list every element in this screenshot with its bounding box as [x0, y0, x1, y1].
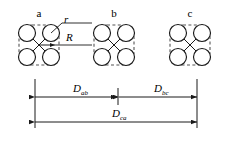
dimension-label-D_ca-subscript: ca: [120, 114, 127, 122]
dimension-label-D_ab-symbol: D: [73, 82, 81, 94]
cluster-label-b: b: [108, 7, 120, 19]
dimension-label-D_ab: Dab: [73, 82, 88, 99]
dimension-label-D_bc-symbol: D: [154, 82, 162, 94]
dimension-label-D_ab-subscript: ab: [81, 89, 88, 97]
cluster-label-a: a: [33, 7, 45, 19]
radius-r-label: r: [64, 13, 68, 25]
sub-conductor-c-0: [170, 25, 187, 42]
cluster-label-c: c: [184, 7, 196, 19]
figure-canvas: abcrRDabDbcDca: [0, 0, 229, 146]
sub-conductor-b-2: [94, 49, 111, 66]
radius-R-label-symbol: R: [66, 31, 73, 43]
sub-conductor-c-3: [194, 49, 211, 66]
sub-conductor-b-0: [94, 25, 111, 42]
radius-R-label: R: [66, 31, 73, 43]
sub-conductor-a-2: [19, 49, 36, 66]
sub-conductor-a-0: [19, 25, 36, 42]
sub-conductor-b-1: [118, 25, 135, 42]
sub-conductor-a-3: [43, 49, 60, 66]
sub-conductor-c-1: [194, 25, 211, 42]
radius-r-label-symbol: r: [64, 13, 68, 25]
dimension-label-D_bc-subscript: bc: [162, 89, 169, 97]
dimension-label-D_ca: Dca: [112, 107, 127, 124]
conductor-cluster-c: [170, 25, 211, 66]
dimension-label-D_ca-symbol: D: [112, 107, 120, 119]
sub-conductor-c-2: [170, 49, 187, 66]
sub-conductor-b-3: [118, 49, 135, 66]
dimension-label-D_bc: Dbc: [154, 82, 169, 99]
conductor-cluster-b: [94, 25, 135, 66]
